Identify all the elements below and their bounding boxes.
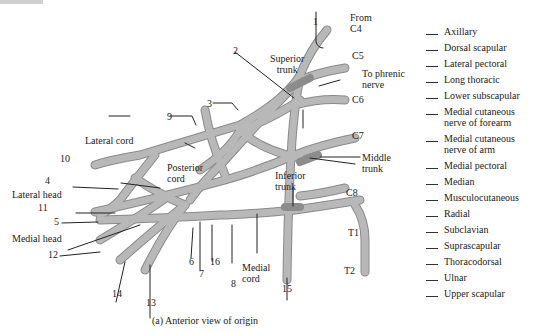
answer-blank[interactable] xyxy=(426,200,438,201)
label-posterior-cord: Posterior cord xyxy=(167,162,203,184)
callout-13: 13 xyxy=(146,297,156,308)
label-t1: T1 xyxy=(348,227,359,238)
label-lateral-cord: Lateral cord xyxy=(85,135,134,146)
callout-1: 1 xyxy=(313,16,318,27)
answer-blank[interactable] xyxy=(426,232,438,233)
answer-blank[interactable] xyxy=(426,168,438,169)
list-item: Dorsal scapular xyxy=(426,42,552,53)
list-item: Radial xyxy=(426,208,552,219)
callout-9: 9 xyxy=(167,111,172,122)
answer-blank[interactable] xyxy=(426,66,438,67)
callout-14: 14 xyxy=(112,288,122,299)
answer-blank[interactable] xyxy=(426,114,438,115)
list-item: Ulnar xyxy=(426,272,552,283)
answer-blank[interactable] xyxy=(426,280,438,281)
label-superior-trunk: Superior trunk xyxy=(270,53,304,75)
label-c7: C7 xyxy=(352,130,364,141)
list-item: Lateral pectoral xyxy=(426,58,552,69)
answer-blank[interactable] xyxy=(426,216,438,217)
answer-blank[interactable] xyxy=(426,264,438,265)
answer-blank[interactable] xyxy=(426,82,438,83)
callout-11: 11 xyxy=(38,202,48,213)
callout-15: 15 xyxy=(282,283,292,294)
label-c8: C8 xyxy=(346,187,358,198)
list-item: Suprascapular xyxy=(426,240,552,251)
label-from-c4: From C4 xyxy=(350,12,372,34)
answer-blank[interactable] xyxy=(426,98,438,99)
callout-4: 4 xyxy=(45,175,50,186)
list-item: Upper scapular xyxy=(426,288,552,299)
callout-12: 12 xyxy=(48,249,58,260)
list-item: Subclavian xyxy=(426,224,552,235)
label-t2: T2 xyxy=(344,265,355,276)
callout-5: 5 xyxy=(54,216,59,227)
list-item: Axillary xyxy=(426,26,552,37)
callout-8: 8 xyxy=(231,278,236,289)
list-item: Medial cutaneous nerve of forearm xyxy=(426,106,552,128)
answer-blank[interactable] xyxy=(426,50,438,51)
list-item: Thoracodorsal xyxy=(426,256,552,267)
answer-blank[interactable] xyxy=(426,184,438,185)
callout-10: 10 xyxy=(60,153,70,164)
callout-6: 6 xyxy=(189,256,194,267)
list-item: Medial pectoral xyxy=(426,160,552,171)
figure-caption: (a) Anterior view of origin xyxy=(152,315,258,326)
label-c6: C6 xyxy=(352,94,364,105)
answer-blank[interactable] xyxy=(426,141,438,142)
list-item: Musculocutaneous xyxy=(426,192,552,203)
label-medial-head: Medial head xyxy=(12,233,62,244)
label-lateral-head: Lateral head xyxy=(12,189,62,200)
nerve-name-list: Axillary Dorsal scapular Lateral pectora… xyxy=(426,26,552,304)
label-to-phrenic-nerve: To phrenic nerve xyxy=(362,68,405,90)
answer-blank[interactable] xyxy=(426,248,438,249)
callout-16: 16 xyxy=(210,256,220,267)
list-item: Long thoracic xyxy=(426,74,552,85)
callout-2: 2 xyxy=(233,45,238,56)
list-item: Median xyxy=(426,176,552,187)
label-middle-trunk: Middle trunk xyxy=(362,152,391,174)
callout-7: 7 xyxy=(199,268,204,279)
answer-blank[interactable] xyxy=(426,34,438,35)
label-c5: C5 xyxy=(352,50,364,61)
callout-3: 3 xyxy=(207,98,212,109)
list-item: Lower subscapular xyxy=(426,90,552,101)
label-inferior-trunk: Inferior trunk xyxy=(275,170,306,192)
list-item: Medial cutaneous nerve of arm xyxy=(426,133,552,155)
label-medial-cord: Medial cord xyxy=(242,262,270,284)
answer-blank[interactable] xyxy=(426,296,438,297)
